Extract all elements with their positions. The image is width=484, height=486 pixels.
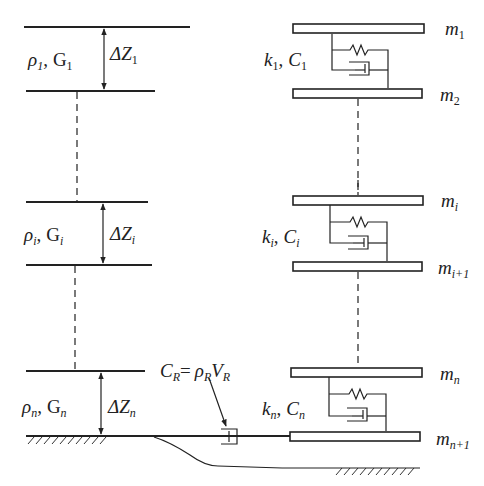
spring-damper-unit-n <box>329 377 386 431</box>
mass-plate-n <box>291 368 422 377</box>
mass-label-i: mi <box>441 190 458 214</box>
dashpot-icon <box>347 408 386 421</box>
mass-plate-i-plus-1 <box>293 262 422 271</box>
layer-1-thickness-label: ΔZ1 <box>109 43 138 67</box>
mass-plate-n-plus-1 <box>290 432 420 441</box>
spring-icon <box>330 217 387 261</box>
mass-plate-1 <box>293 24 424 33</box>
layer-i-thickness-label: ΔZi <box>109 223 135 247</box>
layer-i-properties-label: ρi,Gi <box>23 224 63 248</box>
spring-icon <box>329 389 386 431</box>
mass-label-i-plus-1: mi+1 <box>438 257 469 281</box>
spring-icon <box>332 45 388 88</box>
dashpot-icon <box>348 236 387 249</box>
soil-layer-lumped-mass-diagram: ρ1,G1 ΔZ1 ρi,Gi ΔZi ρn,Gn ΔZn <box>0 0 484 486</box>
layer-n-properties-label: ρn,Gn <box>21 396 67 420</box>
layer-1-properties-label: ρ1,G1 <box>27 49 73 73</box>
mass-label-1: m1 <box>445 18 465 42</box>
mass-plate-i <box>293 196 423 205</box>
lumped-mass-model: m1 m2 mi mi+1 mn mn+1 k1,C1 ki,Ci kn,Cn <box>262 18 470 452</box>
spring-damper-unit-i <box>330 205 387 261</box>
ground-hatch-left <box>28 437 106 444</box>
layer-n-thickness-label: ΔZn <box>107 396 136 420</box>
spring-damper-label-1: k1,C1 <box>264 49 307 73</box>
ground-hatch-right <box>336 468 414 475</box>
mass-label-n-plus-1: mn+1 <box>436 428 470 452</box>
bedrock-curve <box>154 437 282 468</box>
layered-soil-model: ρ1,G1 ΔZ1 ρi,Gi ΔZi ρn,Gn ΔZn <box>21 27 290 444</box>
mass-label-2: m2 <box>440 84 460 108</box>
radiation-damping-formula: CR=ρRVR <box>160 360 231 384</box>
dashpot-icon <box>349 62 388 75</box>
mass-label-n: mn <box>440 363 460 387</box>
mass-plate-2 <box>293 89 422 98</box>
spring-damper-label-n: kn,Cn <box>262 398 305 422</box>
radiation-damper-pointer-arrow <box>209 378 226 426</box>
spring-damper-unit-1 <box>332 34 388 88</box>
spring-damper-label-i: ki,Ci <box>262 226 300 250</box>
